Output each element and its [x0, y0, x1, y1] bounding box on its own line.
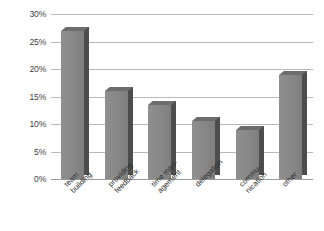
y-tick-label: 0%	[0, 174, 46, 184]
bar-top-face	[105, 87, 133, 91]
gridline-20	[51, 69, 313, 70]
plot-area	[51, 0, 313, 180]
bar-top-face	[61, 27, 89, 31]
bar-front-face	[279, 75, 302, 180]
bar-side-face	[302, 71, 307, 176]
bar-side-face	[84, 27, 89, 176]
y-tick-label: 10%	[0, 119, 46, 129]
bar-chart: 30% 25% 20% 15% 10% 5% 0% teambuildingpr…	[0, 0, 324, 231]
y-tick-label: 5%	[0, 147, 46, 157]
bar[interactable]	[61, 31, 84, 180]
gridline-25	[51, 42, 313, 43]
gridline-30	[51, 14, 313, 15]
bar-front-face	[61, 31, 84, 180]
gridline-5	[51, 152, 313, 153]
gridline-10	[51, 124, 313, 125]
bar[interactable]	[279, 75, 302, 180]
bar-top-face	[148, 101, 176, 105]
y-axis: 30% 25% 20% 15% 10% 5% 0%	[0, 0, 46, 231]
y-tick-label: 15%	[0, 92, 46, 102]
bar-top-face	[279, 71, 307, 75]
gridline-15	[51, 97, 313, 98]
y-tick-label: 30%	[0, 9, 46, 19]
y-tick-label: 25%	[0, 37, 46, 47]
y-tick-label: 20%	[0, 64, 46, 74]
x-axis: teambuildingprovidingfeedbacktime man-ag…	[51, 181, 313, 231]
bar-top-face	[236, 126, 264, 130]
